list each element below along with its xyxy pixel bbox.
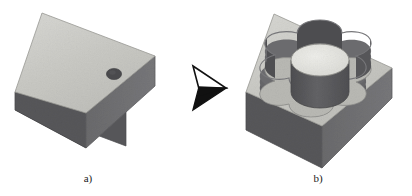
figure-root: a) xyxy=(0,0,412,196)
boss-top xyxy=(291,44,349,76)
drilled-hole-highlight xyxy=(109,70,115,74)
figure-canvas: a) xyxy=(0,0,412,196)
panel-a-block xyxy=(15,13,155,148)
central-cylindrical-boss xyxy=(291,44,349,108)
arrow-upper-barb xyxy=(193,66,226,89)
process-arrow-icon xyxy=(193,66,226,110)
panel-b-block xyxy=(246,14,392,168)
caption-b: b) xyxy=(313,172,323,185)
caption-a: a) xyxy=(84,172,93,185)
